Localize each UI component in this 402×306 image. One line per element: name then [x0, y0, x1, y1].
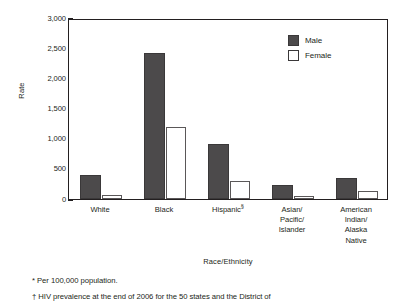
- chart-legend: MaleFemale: [288, 33, 331, 63]
- legend-label: Female: [305, 51, 331, 60]
- bar-female: [230, 181, 251, 199]
- legend-label: Male: [305, 36, 322, 45]
- x-axis-category-label: AmericanIndian/AlaskaNative: [316, 205, 396, 246]
- y-axis-tick-label: 1,500: [47, 104, 66, 113]
- x-axis-category-line: Alaska: [316, 225, 396, 235]
- legend-item: Female: [288, 48, 331, 63]
- bar-male: [80, 175, 101, 199]
- y-axis-tick-label: 500: [54, 164, 66, 173]
- bar-female: [102, 195, 123, 199]
- bar-female: [358, 191, 379, 199]
- bar-female: [294, 196, 315, 199]
- bar-chart-figure: Rate 3,0002,5002,0001,5001,0005000 White…: [0, 0, 402, 306]
- plot-area: [68, 19, 388, 200]
- legend-item: Male: [288, 33, 331, 48]
- y-axis-title: Rate: [17, 69, 26, 113]
- x-axis-category-line: American: [316, 205, 396, 215]
- bar-male: [272, 185, 293, 199]
- y-axis-tick-label: 0: [62, 195, 66, 204]
- footnote-marker: §: [241, 203, 244, 209]
- y-axis-tick-label: 3,000: [47, 14, 66, 23]
- footnote-dagger: † HIV prevalence at the end of 2006 for …: [32, 292, 271, 301]
- bar-male: [208, 144, 229, 199]
- legend-swatch-female: [288, 50, 299, 61]
- y-axis-tick-label: 2,000: [47, 74, 66, 83]
- y-axis-tick-label: 1,000: [47, 134, 66, 143]
- bar-male: [336, 178, 357, 199]
- y-axis-tick-label: 2,500: [47, 44, 66, 53]
- x-axis-category-line: Native: [316, 236, 396, 246]
- bar-male: [144, 53, 165, 199]
- footnote-asterisk: * Per 100,000 population.: [32, 276, 118, 285]
- x-axis-category-line: Indian/: [316, 215, 396, 225]
- bar-female: [166, 127, 187, 199]
- legend-swatch-male: [288, 35, 299, 46]
- x-axis-title: Race/Ethnicity: [68, 257, 388, 266]
